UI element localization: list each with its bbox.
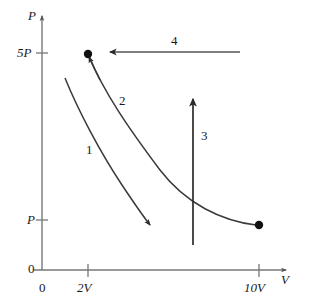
y-axis-label: P xyxy=(28,9,36,22)
process-1-curve xyxy=(65,78,150,225)
x-tick-label-10v: 10V xyxy=(244,281,265,294)
y-tick-label-5p: 5P xyxy=(17,46,31,59)
pv-diagram-figure: P V 5P P 0 0 2V 10V 1 2 3 4 xyxy=(0,0,310,307)
process-label-4: 4 xyxy=(171,34,178,47)
x-axis-label: V xyxy=(281,273,289,286)
axis-ticks xyxy=(36,53,259,277)
process-label-1: 1 xyxy=(86,143,93,156)
x-origin-label: 0 xyxy=(39,281,46,294)
state-point-a xyxy=(84,50,92,58)
y-tick-label-p: P xyxy=(27,213,35,226)
pv-diagram-canvas xyxy=(0,0,310,307)
state-point-b xyxy=(255,221,263,229)
process-label-3: 3 xyxy=(201,129,208,142)
x-tick-label-2v: 2V xyxy=(77,281,91,294)
process-2-curve xyxy=(89,56,256,225)
process-label-2: 2 xyxy=(119,94,126,107)
axis-lines xyxy=(34,16,286,270)
y-origin-label: 0 xyxy=(28,262,35,275)
process-1-arrowhead-up xyxy=(89,57,100,80)
